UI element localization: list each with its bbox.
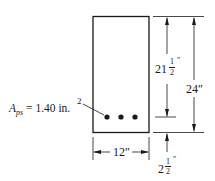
depth-unit: ″: [177, 57, 180, 65]
depth-fraction-num: 1: [170, 58, 174, 66]
tendon-dot: [132, 114, 137, 119]
cover-unit: ″: [173, 156, 176, 164]
cover-fraction-num: 1: [166, 158, 170, 166]
cover-label: 2: [158, 163, 164, 175]
depth-fraction-den: 2: [170, 69, 174, 77]
steel-exponent: 2: [77, 97, 82, 106]
cover-fraction-den: 2: [166, 168, 170, 176]
steel-area-label: Aps = 1.40 in.: [9, 103, 70, 117]
steel-symbol: A: [9, 102, 16, 114]
beam-section-drawing: [0, 0, 215, 181]
tendon-dot: [104, 114, 109, 119]
width-label: 12″: [113, 146, 130, 158]
depth-whole: 21: [155, 62, 167, 76]
height-label: 24″: [186, 83, 203, 95]
tendon-dot: [118, 114, 123, 119]
depth-label: 21: [155, 63, 167, 75]
steel-value: = 1.40 in.: [23, 102, 70, 114]
